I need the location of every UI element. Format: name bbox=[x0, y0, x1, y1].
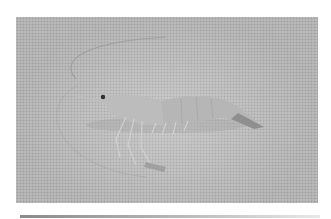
shrimp-photo bbox=[16, 17, 318, 203]
claw bbox=[144, 162, 166, 172]
bottom-divider bbox=[20, 215, 320, 218]
antenna-upper bbox=[71, 37, 166, 79]
eye bbox=[101, 95, 105, 99]
shrimp-illustration bbox=[16, 17, 318, 203]
